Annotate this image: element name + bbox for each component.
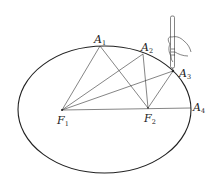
label-f2: F2 (143, 112, 156, 126)
label-a3: A3 (178, 67, 191, 81)
focus-f2-dot (147, 107, 149, 109)
ellipse-diagram: A1 A2 A3 A4 F1 F2 (0, 0, 216, 188)
hand-pen-icon (168, 16, 191, 71)
focus-f1-dot (61, 109, 63, 111)
label-a1: A1 (93, 33, 106, 47)
segment-f1-a2 (62, 54, 143, 110)
label-a2: A2 (140, 41, 153, 55)
segment-f1-a1 (62, 46, 100, 110)
segment-f1-a3 (62, 71, 173, 110)
segment-a3-f2 (148, 71, 173, 108)
label-f1: F1 (56, 114, 69, 128)
segment-f1-a4 (62, 108, 191, 110)
label-a4: A4 (192, 101, 205, 115)
